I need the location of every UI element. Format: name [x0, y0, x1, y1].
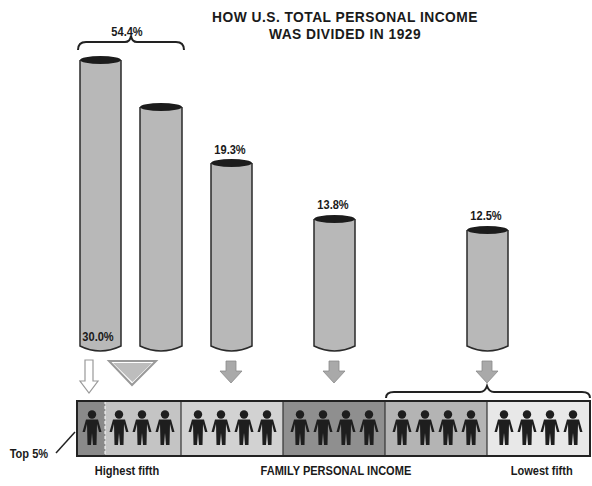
bar-third-fifth: [314, 215, 355, 351]
top5-pointer: [56, 432, 75, 453]
arrow-lower-icon: [476, 361, 498, 383]
label-19-3: 19.3%: [214, 143, 245, 157]
bar-lower-fifths: [467, 226, 508, 351]
arrow-top5-icon: [80, 360, 98, 393]
x-axis-label: FAMILY PERSONAL INCOME: [261, 464, 412, 478]
label-lowest-fifth: Lowest fifth: [511, 464, 573, 478]
label-12-5: 12.5%: [470, 209, 501, 223]
arrow-second-icon: [220, 361, 242, 383]
label-54-4: 54.4%: [111, 25, 142, 39]
label-30-0: 30.0%: [82, 330, 113, 344]
label-top5: Top 5%: [10, 447, 48, 461]
population-strip: [77, 401, 590, 456]
bar-top5: [80, 56, 121, 351]
label-highest-fifth: Highest fifth: [95, 464, 159, 478]
lower-fifths-brace: [386, 386, 590, 398]
bar-second-fifth: [211, 159, 252, 351]
chart-graphic: [0, 0, 592, 486]
arrow-third-icon: [323, 361, 345, 383]
label-13-8: 13.8%: [317, 198, 348, 212]
arrow-highest-icon: [109, 361, 156, 385]
bar-highest-remainder: [140, 103, 182, 351]
